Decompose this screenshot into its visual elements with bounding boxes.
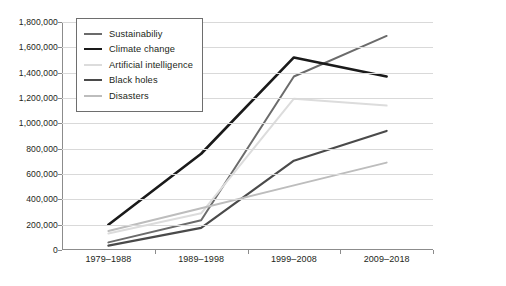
chart-legend: SustainabiliyClimate changeArtificial in…: [76, 18, 203, 112]
y-tick-label: 400,000: [26, 194, 58, 204]
y-tick-mark: [58, 250, 62, 251]
y-tick-mark: [58, 22, 62, 23]
gridline: [62, 225, 433, 226]
y-tick-mark: [58, 73, 62, 74]
series-line: [108, 163, 386, 231]
legend-label: Black holes: [109, 75, 158, 85]
x-tick-label: 1999–2008: [271, 254, 317, 264]
y-tick-mark: [58, 149, 62, 150]
gridline: [62, 149, 433, 150]
y-tick-label: 1,400,000: [19, 68, 58, 78]
legend-label: Sustainabiliy: [109, 29, 163, 39]
x-tick-mark: [433, 250, 434, 254]
legend-swatch-icon: [84, 48, 102, 50]
x-tick-label: 2009–2018: [364, 254, 410, 264]
x-axis-labels: 1979–19881989–19981999–20082009–2018: [62, 254, 433, 278]
x-tick-label: 1989–1998: [178, 254, 224, 264]
gridline: [62, 123, 433, 124]
y-tick-mark: [58, 47, 62, 48]
legend-item[interactable]: Artificial intelligence: [84, 57, 193, 73]
legend-item[interactable]: Climate change: [84, 42, 193, 58]
y-tick-label: 1,800,000: [19, 17, 58, 27]
y-tick-label: 800,000: [26, 144, 58, 154]
line-chart: 1,800,0001,600,0001,400,0001,200,0001,00…: [0, 0, 506, 286]
x-tick-label: 1979–1988: [85, 254, 131, 264]
legend-swatch-icon: [84, 64, 102, 66]
y-tick-mark: [58, 225, 62, 226]
legend-swatch-icon: [84, 33, 102, 35]
y-tick-label: 600,000: [26, 169, 58, 179]
y-tick-mark: [58, 199, 62, 200]
legend-label: Climate change: [109, 44, 175, 54]
gridline: [62, 174, 433, 175]
legend-item[interactable]: Black holes: [84, 73, 193, 89]
legend-label: Disasters: [109, 91, 149, 101]
y-tick-label: 1,200,000: [19, 93, 58, 103]
y-tick-mark: [58, 98, 62, 99]
y-tick-mark: [58, 174, 62, 175]
y-axis-labels: 1,800,0001,600,0001,400,0001,200,0001,00…: [0, 0, 58, 286]
legend-item[interactable]: Sustainabiliy: [84, 26, 193, 42]
legend-swatch-icon: [84, 79, 102, 81]
legend-label: Artificial intelligence: [109, 60, 193, 70]
y-tick-label: 1,000,000: [19, 118, 58, 128]
y-tick-mark: [58, 123, 62, 124]
y-tick-label: 200,000: [26, 220, 58, 230]
series-line: [108, 99, 386, 234]
y-tick-label: 1,600,000: [19, 42, 58, 52]
legend-item[interactable]: Disasters: [84, 88, 193, 104]
gridline: [62, 199, 433, 200]
legend-swatch-icon: [84, 95, 102, 97]
